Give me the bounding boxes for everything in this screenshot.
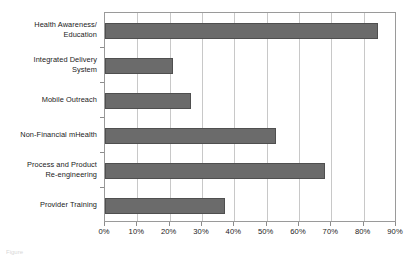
category-label: Process and Product Re-engineering bbox=[0, 160, 97, 178]
x-axis-tick bbox=[298, 222, 299, 226]
x-axis-label: 80% bbox=[348, 227, 378, 237]
category-label: Health Awareness/ Education bbox=[0, 20, 97, 38]
x-axis-tick bbox=[395, 222, 396, 226]
category-label: Non-Financial mHealth bbox=[0, 130, 97, 139]
x-axis-label: 50% bbox=[251, 227, 281, 237]
x-axis-label: 40% bbox=[218, 227, 248, 237]
category-label: Provider Training bbox=[0, 200, 97, 209]
x-axis-tick bbox=[136, 222, 137, 226]
bar-chart: Health Awareness/ EducationIntegrated De… bbox=[0, 0, 415, 258]
category-axis: Health Awareness/ EducationIntegrated De… bbox=[0, 12, 101, 222]
x-axis-tick bbox=[233, 222, 234, 226]
category-label: Integrated Delivery System bbox=[0, 55, 97, 73]
x-axis-label: 0% bbox=[89, 227, 119, 237]
y-axis-tick bbox=[100, 187, 104, 188]
x-axis-tick bbox=[330, 222, 331, 226]
bar bbox=[105, 163, 325, 179]
bar bbox=[105, 93, 191, 109]
bar bbox=[105, 198, 225, 214]
y-axis-tick bbox=[100, 82, 104, 83]
y-axis-tick bbox=[100, 47, 104, 48]
y-axis-tick bbox=[100, 152, 104, 153]
gridline bbox=[331, 13, 332, 221]
x-axis-tick bbox=[104, 222, 105, 226]
caption-fragment: Figure bbox=[6, 248, 186, 256]
x-axis-label: 60% bbox=[283, 227, 313, 237]
gridline bbox=[137, 13, 138, 221]
x-axis-label: 90% bbox=[380, 227, 410, 237]
gridline bbox=[299, 13, 300, 221]
y-axis-tick bbox=[100, 117, 104, 118]
x-axis-label: 30% bbox=[186, 227, 216, 237]
bar bbox=[105, 23, 378, 39]
x-axis-tick bbox=[169, 222, 170, 226]
x-axis-label: 70% bbox=[315, 227, 345, 237]
value-axis: 0%10%20%30%40%50%60%70%80%90% bbox=[0, 222, 415, 246]
gridline bbox=[267, 13, 268, 221]
x-axis-label: 10% bbox=[121, 227, 151, 237]
plot-area bbox=[104, 12, 396, 222]
category-label: Mobile Outreach bbox=[0, 95, 97, 104]
x-axis-tick bbox=[201, 222, 202, 226]
gridline bbox=[364, 13, 365, 221]
x-axis-label: 20% bbox=[154, 227, 184, 237]
gridline bbox=[234, 13, 235, 221]
bar bbox=[105, 58, 173, 74]
gridline bbox=[202, 13, 203, 221]
x-axis-tick bbox=[266, 222, 267, 226]
gridline bbox=[170, 13, 171, 221]
x-axis-tick bbox=[363, 222, 364, 226]
bar bbox=[105, 128, 276, 144]
